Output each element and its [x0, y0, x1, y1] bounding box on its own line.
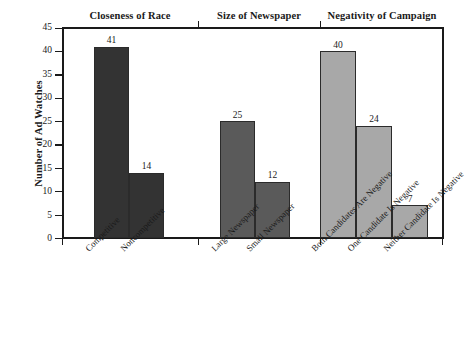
y-tick-label-15: 15 [30, 164, 52, 174]
y-tick-mark-45 [55, 28, 62, 29]
group-header-closeness-of-race: Closeness of Race [62, 10, 198, 21]
y-tick-mark-0 [55, 238, 62, 239]
group-header-size-of-newspaper: Size of Newspaper [198, 10, 320, 21]
y-tick-label-20: 20 [30, 140, 52, 150]
y-tick-mark-25 [55, 121, 62, 122]
bar-value-small-newspaper: 12 [255, 170, 290, 180]
bar-value-both-candidates-are-negative: 40 [320, 40, 356, 50]
y-tick-label-5: 5 [30, 211, 52, 221]
bar-value-large-newspaper: 25 [220, 110, 255, 120]
y-tick-mark-20 [55, 144, 62, 145]
y-tick-label-10: 10 [30, 187, 52, 197]
group-header-negativity-of-campaign: Negativity of Campaign [320, 10, 444, 21]
y-tick-mark-15 [55, 168, 62, 169]
y-tick-label-30: 30 [30, 93, 52, 103]
y-tick-label-40: 40 [30, 46, 52, 56]
x-tick-mark-group-1-2 [198, 239, 199, 245]
x-tick-mark-right-edge [442, 239, 443, 245]
y-tick-mark-10 [55, 191, 62, 192]
bar-value-one-candidate-is-negative: 24 [356, 114, 392, 124]
y-tick-label-25: 25 [30, 117, 52, 127]
y-tick-mark-35 [55, 74, 62, 75]
y-tick-mark-40 [55, 51, 62, 52]
y-tick-label-0: 0 [30, 234, 52, 244]
bar-competitive[interactable] [94, 47, 129, 238]
y-axis-title: Number of Ad Watches [33, 39, 44, 229]
bar-value-noncompetitive: 14 [129, 161, 164, 171]
y-tick-mark-30 [55, 98, 62, 99]
y-tick-label-45: 45 [30, 23, 52, 33]
x-tick-mark-left-edge [62, 239, 63, 245]
y-tick-label-35: 35 [30, 70, 52, 80]
bar-chart-figure: Number of Ad Watches 45 40 35 30 25 20 1… [0, 0, 464, 361]
bar-value-competitive: 41 [94, 35, 129, 45]
y-tick-mark-5 [55, 215, 62, 216]
